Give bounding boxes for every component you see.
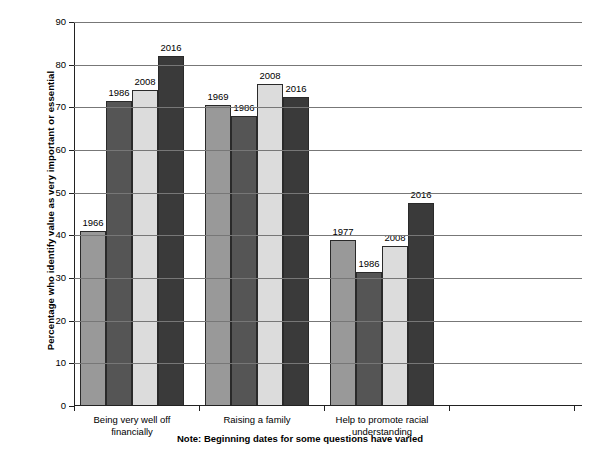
bar-value-label: 2008 [379,232,411,243]
bar-value-label: 2008 [254,70,286,81]
y-axis-tick-label: 50 [26,187,66,198]
x-axis-tick [74,406,75,411]
bar-value-label: 1969 [202,91,234,102]
y-axis-tick [69,278,74,279]
x-axis-tick [199,406,200,411]
y-axis-tick-label: 80 [26,59,66,70]
y-axis-tick [69,235,74,236]
y-axis-tick [69,363,74,364]
gridline [74,278,582,279]
y-axis-tick-label: 0 [26,400,66,411]
gridline [74,193,582,194]
y-axis-tick [69,150,74,151]
bar-value-label: 2016 [405,189,437,200]
y-axis-tick [69,193,74,194]
chart-note: Note: Beginning dates for some questions… [0,433,600,444]
y-axis-tick-label: 20 [26,315,66,326]
bar [132,90,158,406]
gridline [74,235,582,236]
y-axis-tick-label: 40 [26,229,66,240]
y-axis-tick-label: 60 [26,144,66,155]
bar [356,272,382,406]
y-axis-tick [69,65,74,66]
y-axis-tick [69,107,74,108]
y-axis-tick-label: 90 [26,16,66,27]
bar [382,246,408,406]
bar [408,203,434,406]
gridline [74,405,582,406]
gridline [74,65,582,66]
bar [106,101,132,406]
x-axis-tick [449,406,450,411]
bar-value-label: 1966 [77,217,109,228]
x-axis-tick [324,406,325,411]
bar-value-label: 1986 [353,258,385,269]
bar [257,84,283,406]
x-axis-tick [574,406,575,411]
bar [158,56,184,406]
bar-value-label: 1986 [103,87,135,98]
bar [283,97,309,406]
gridline [74,22,582,23]
plot-area: 1966198620082016196919862008201619771986… [74,22,582,406]
y-axis-title: Percentage who identify value as very im… [45,21,56,401]
bar-value-label: 2016 [155,42,187,53]
gridline [74,150,582,151]
y-axis-tick [69,321,74,322]
gridline [74,107,582,108]
gridline [74,363,582,364]
y-axis-tick-label: 30 [26,272,66,283]
bars-layer: 1966198620082016196919862008201619771986… [74,22,582,406]
bar-value-label: 2016 [280,83,312,94]
bar-value-label: 2008 [129,76,161,87]
bar-chart: Percentage who identify value as very im… [0,0,600,455]
gridline [74,321,582,322]
y-axis-tick-label: 10 [26,357,66,368]
bar [80,231,106,406]
y-axis-tick-label: 70 [26,101,66,112]
y-axis-tick [69,22,74,23]
